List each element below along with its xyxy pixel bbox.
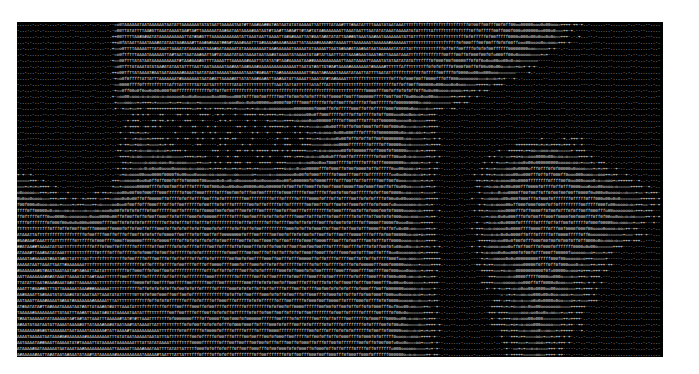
ascii-art-image: ......-..-.-....-.--.......-.-..-....--=…: [17, 22, 663, 357]
ascii-art-frame: ......-..-.-....-.--.......-.-..-....--=…: [17, 22, 663, 357]
